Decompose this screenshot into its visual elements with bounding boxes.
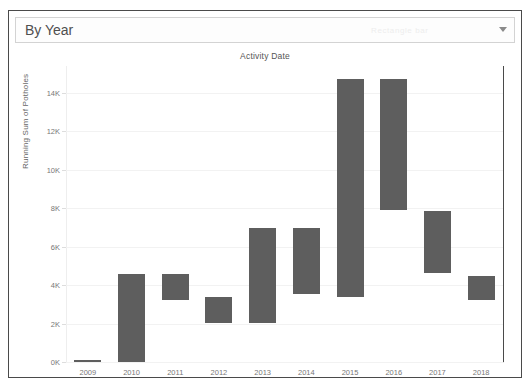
bar-2018[interactable]: [468, 276, 495, 300]
y-axis-tick-mark: [62, 285, 66, 286]
x-axis-tick-label-2010: 2010: [123, 368, 140, 377]
cropped-top-text: ·······················: [56, 0, 175, 4]
y-axis-tick-label: 8K: [51, 204, 60, 213]
cropped-top-text-strip: ·······················: [0, 0, 530, 8]
bar-2017[interactable]: [424, 211, 451, 274]
bar-2012[interactable]: [205, 297, 232, 323]
y-axis-tick-label: 10K: [47, 165, 60, 174]
bar-2014[interactable]: [293, 228, 320, 293]
visualization-card: By Year Rectangle bar Activity Date Runn…: [8, 10, 522, 378]
y-axis-tick-mark: [62, 208, 66, 209]
gridline: [66, 208, 503, 209]
y-axis-tick-mark: [62, 324, 66, 325]
y-axis-tick-label: 2K: [51, 319, 60, 328]
x-axis-tick-label-2011: 2011: [167, 368, 183, 377]
y-axis-tick-label: 4K: [51, 281, 60, 290]
y-axis-tick-mark: [62, 362, 66, 363]
bar-2010[interactable]: [118, 274, 145, 362]
gridline: [66, 93, 503, 94]
x-axis-tick-label-2013: 2013: [254, 368, 271, 377]
x-axis-tick-label-2012: 2012: [211, 368, 228, 377]
bar-2013[interactable]: [249, 228, 276, 323]
gridline: [66, 131, 503, 132]
y-axis-tick-mark: [62, 247, 66, 248]
plot-area: 0K2K4K6K8K10K12K14K: [66, 66, 503, 362]
y-axis-tick-mark: [62, 131, 66, 132]
screenshot-root: ······················· By Year Rectangl…: [0, 0, 530, 388]
x-axis-tick-label-2009: 2009: [80, 368, 97, 377]
chart-title: Activity Date: [9, 51, 521, 61]
bar-2015[interactable]: [337, 79, 364, 296]
chart-container: Activity Date Running Sum of Potholes 0K…: [9, 11, 521, 377]
gridline: [66, 170, 503, 171]
y-axis-tick-mark: [62, 93, 66, 94]
x-axis-tick-label-2018: 2018: [473, 368, 490, 377]
y-axis-title: Running Sum of Potholes: [21, 74, 30, 169]
bar-2009[interactable]: [74, 360, 101, 362]
bar-2016[interactable]: [380, 79, 407, 210]
y-axis-tick-label: 0K: [51, 358, 60, 367]
x-axis-tick-label-2017: 2017: [429, 368, 446, 377]
y-axis-tick-label: 12K: [47, 127, 60, 136]
x-axis-tick-label-2016: 2016: [385, 368, 402, 377]
y-axis-tick-label: 14K: [47, 88, 60, 97]
x-axis-tick-label-2014: 2014: [298, 368, 315, 377]
x-axis-tick-label-2015: 2015: [342, 368, 359, 377]
gridline: [66, 362, 503, 363]
plot-right-border: [503, 66, 504, 362]
y-axis-tick-mark: [62, 170, 66, 171]
y-axis-tick-label: 6K: [51, 242, 60, 251]
bar-2011[interactable]: [162, 274, 189, 300]
